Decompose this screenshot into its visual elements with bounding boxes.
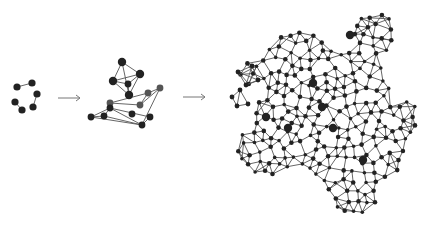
node (145, 90, 152, 97)
node (125, 81, 132, 88)
arrow-right-icon (183, 94, 205, 100)
node (29, 103, 36, 110)
stage-3-network (230, 13, 418, 214)
node (136, 70, 144, 78)
node (13, 83, 20, 90)
node (147, 114, 154, 121)
node (129, 111, 136, 118)
node (18, 106, 25, 113)
network-growth-diagram (0, 0, 430, 229)
node (125, 91, 133, 99)
arrow-right-icon (58, 95, 80, 101)
node (88, 114, 95, 121)
stage-2-network (88, 58, 164, 129)
node (33, 90, 40, 97)
node (118, 58, 126, 66)
node (107, 105, 114, 112)
node (109, 77, 117, 85)
node (101, 113, 108, 120)
node (11, 98, 18, 105)
edge (110, 103, 140, 105)
node (137, 102, 144, 109)
node (157, 85, 164, 92)
node (28, 79, 35, 86)
edge (104, 116, 142, 125)
node (139, 122, 146, 129)
stage-1-network (11, 79, 40, 113)
